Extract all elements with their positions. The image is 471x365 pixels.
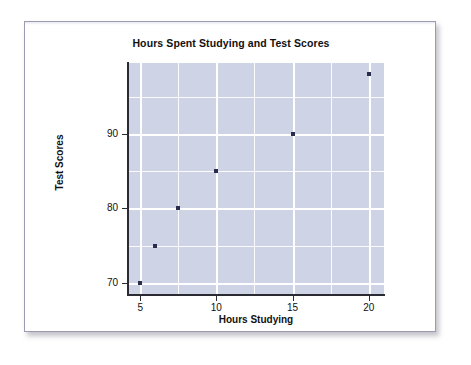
x-tick-mark	[216, 296, 217, 301]
x-axis-spine	[127, 294, 385, 296]
chart-title: Hours Spent Studying and Test Scores	[25, 37, 437, 49]
gridline-vertical	[140, 63, 142, 294]
gridline-horizontal	[128, 246, 384, 247]
y-axis-spine	[127, 62, 129, 295]
x-tick-mark	[140, 296, 141, 301]
data-point	[138, 281, 142, 285]
x-tick-label: 20	[354, 302, 384, 313]
y-tick-mark	[122, 134, 127, 135]
x-tick-label: 5	[125, 302, 155, 313]
y-tick-label: 90	[78, 128, 118, 139]
gridline-vertical	[178, 63, 179, 294]
data-point	[153, 244, 157, 248]
screenshot-root: Hours Spent Studying and Test Scores 708…	[0, 0, 471, 365]
gridline-vertical	[369, 63, 371, 294]
y-tick-mark	[122, 283, 127, 284]
data-point	[367, 72, 371, 76]
x-tick-label: 10	[201, 302, 231, 313]
gridline-horizontal	[128, 171, 384, 172]
y-tick-label: 80	[78, 202, 118, 213]
chart-card: Hours Spent Studying and Test Scores 708…	[24, 21, 436, 332]
y-tick-mark	[122, 208, 127, 209]
y-tick-label: 70	[78, 277, 118, 288]
scatter-plot-figure: Hours Spent Studying and Test Scores 708…	[25, 22, 437, 333]
gridline-vertical	[216, 63, 218, 294]
x-axis-label: Hours Studying	[128, 314, 384, 325]
y-axis-label: Test Scores	[54, 108, 65, 218]
data-point	[214, 169, 218, 173]
gridline-vertical	[331, 63, 332, 294]
x-tick-mark	[369, 296, 370, 301]
data-point	[176, 206, 180, 210]
gridline-vertical	[293, 63, 295, 294]
gridline-horizontal	[128, 97, 384, 98]
gridline-horizontal	[128, 134, 384, 136]
data-point	[291, 132, 295, 136]
gridline-vertical	[254, 63, 255, 294]
gridline-horizontal	[128, 283, 384, 285]
x-tick-label: 15	[278, 302, 308, 313]
x-tick-mark	[293, 296, 294, 301]
gridline-horizontal	[128, 208, 384, 210]
plot-area	[128, 63, 384, 294]
